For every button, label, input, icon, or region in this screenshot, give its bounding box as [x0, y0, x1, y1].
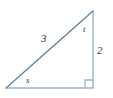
right-angle-marker [85, 80, 93, 88]
hypotenuse-label: 3 [41, 33, 47, 44]
angle-t-label: t [83, 25, 86, 34]
hypotenuse-line [6, 11, 93, 88]
triangle-figure: 3 2 t s [0, 0, 113, 98]
angle-s-label: s [26, 76, 30, 85]
vertical-leg-label: 2 [97, 45, 103, 56]
